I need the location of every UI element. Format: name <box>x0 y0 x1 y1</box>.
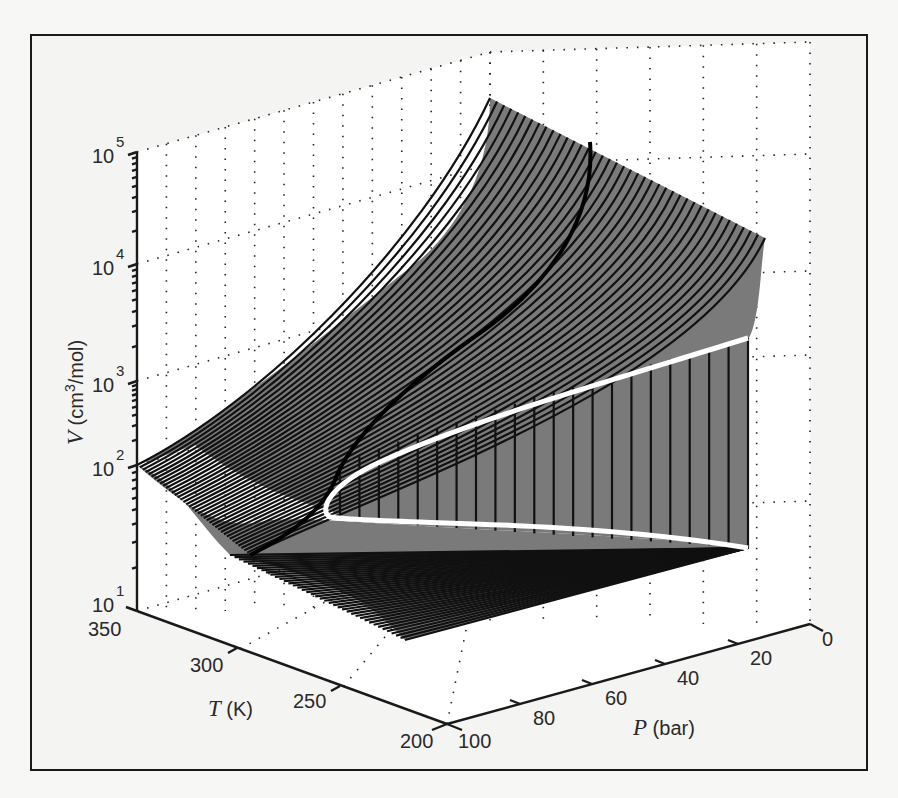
svg-text:250: 250 <box>293 690 326 712</box>
pvt-surface-plot: 10 5 10 4 10 3 10 2 10 1 350 300 250 200… <box>0 0 898 798</box>
svg-text:10: 10 <box>92 257 114 279</box>
svg-text:20: 20 <box>750 647 772 669</box>
svg-text:100: 100 <box>458 730 491 752</box>
svg-text:10: 10 <box>92 594 114 616</box>
svg-text:10: 10 <box>92 145 114 167</box>
svg-text:0: 0 <box>822 628 833 650</box>
svg-text:350: 350 <box>88 618 121 640</box>
v-axis-title: V (cm3/mol) <box>62 340 88 445</box>
svg-text:4: 4 <box>116 245 124 262</box>
svg-text:5: 5 <box>116 133 124 150</box>
svg-text:1: 1 <box>116 582 124 599</box>
svg-text:40: 40 <box>677 667 699 689</box>
svg-text:10: 10 <box>92 374 114 396</box>
svg-text:2: 2 <box>116 446 124 463</box>
svg-text:200: 200 <box>400 730 433 752</box>
svg-text:3: 3 <box>116 362 124 379</box>
p-axis-title: P (bar) <box>632 715 695 740</box>
svg-text:V (cm3/mol): V (cm3/mol) <box>62 340 88 445</box>
svg-text:300: 300 <box>190 654 223 676</box>
svg-text:60: 60 <box>605 687 627 709</box>
t-axis-title: T (K) <box>208 696 253 721</box>
svg-text:80: 80 <box>533 707 555 729</box>
v-axis-tick-labels: 10 5 10 4 10 3 10 2 10 1 <box>92 133 124 616</box>
svg-text:10: 10 <box>92 458 114 480</box>
